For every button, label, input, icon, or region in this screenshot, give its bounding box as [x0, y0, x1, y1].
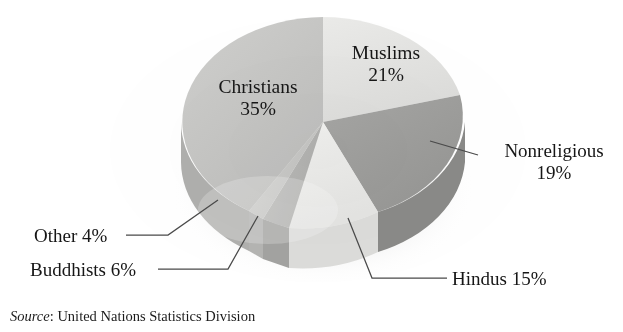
- slice-label-christians-name: Christians: [218, 76, 297, 97]
- slice-label-nonreligious-value: 19%: [484, 162, 623, 184]
- slice-label-muslims: Muslims 21%: [330, 42, 442, 86]
- slice-label-nonreligious: Nonreligious 19%: [484, 140, 623, 183]
- source-text: United Nations Statistics Division: [57, 308, 255, 324]
- pie-highlight: [198, 176, 338, 244]
- source-label: Source: [10, 308, 50, 324]
- slice-label-muslims-name: Muslims: [352, 42, 420, 63]
- slice-label-muslims-value: 21%: [330, 64, 442, 86]
- slice-label-nonreligious-name: Nonreligious: [504, 140, 603, 161]
- slice-label-other: Other 4%: [34, 225, 107, 247]
- chart-stage: Christians 35% Muslims 21% Nonreligious …: [0, 0, 623, 332]
- slice-label-buddhists: Buddhists 6%: [30, 259, 136, 281]
- slice-label-hindus: Hindus 15%: [452, 268, 546, 290]
- pie-chart-figure: Christians 35% Muslims 21% Nonreligious …: [0, 0, 623, 332]
- slice-label-christians-value: 35%: [196, 98, 320, 120]
- slice-label-christians: Christians 35%: [196, 76, 320, 120]
- source-note: Source: United Nations Statistics Divisi…: [10, 308, 255, 325]
